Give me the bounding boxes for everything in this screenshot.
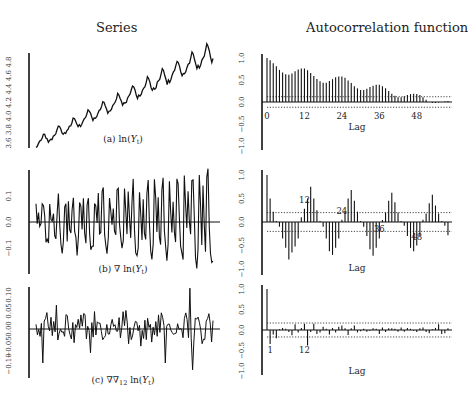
x-tick-label: 36 xyxy=(374,111,385,121)
series-line xyxy=(36,169,213,269)
y-tick-label: −0.5 xyxy=(238,116,246,133)
panel-a-series: 3.63.84.04.24.44.64.8(a) ln(Yt) xyxy=(5,44,213,149)
y-tick-label: 0.1 xyxy=(5,190,13,201)
y-tick-label: −0.1 xyxy=(5,240,13,257)
y-tick-label: 4.8 xyxy=(5,56,13,67)
y-tick-label: 4.4 xyxy=(5,83,13,95)
x-tick-label: 1 xyxy=(267,345,272,355)
y-tick-label: 1.0 xyxy=(238,169,246,180)
y-tick-label: 0.00 xyxy=(5,321,13,337)
lag-annotation: 36 xyxy=(374,224,385,234)
x-axis-label: Lag xyxy=(348,263,365,273)
y-tick-label: 4.2 xyxy=(5,97,13,108)
panel-caption: (b) ∇ ln(Yt) xyxy=(98,264,147,276)
y-tick-label: −1.0 xyxy=(238,138,246,155)
y-tick-label: 0.5 xyxy=(238,74,246,85)
acf-column-title: Autocorrelation function xyxy=(305,20,468,35)
y-tick-label: 0.05 xyxy=(5,303,13,319)
series-column-title: Series xyxy=(96,20,137,35)
lag-annotation: 12 xyxy=(299,195,310,205)
y-tick-label: 0.5 xyxy=(238,304,246,315)
y-tick-label: 0.5 xyxy=(238,193,246,204)
y-tick-label: 1.0 xyxy=(238,283,246,294)
y-tick-label: 0.0 xyxy=(238,324,246,335)
y-tick-label: 3.6 xyxy=(5,137,13,149)
y-tick-label: −1.0 xyxy=(238,261,246,278)
lag-annotation: 24 xyxy=(336,206,347,216)
panel-caption: (a) ln(Yt) xyxy=(103,134,143,146)
series-line xyxy=(36,44,213,148)
panel-b-series: −0.10.00.1(b) ∇ ln(Yt) xyxy=(5,169,220,276)
y-tick-label: 3.8 xyxy=(5,124,13,135)
x-axis-label: Lag xyxy=(348,366,365,376)
y-tick-label: −0.5 xyxy=(238,237,246,254)
panel-c-acf: 1.00.50.0−0.5−1.0112Lag xyxy=(238,283,452,379)
panel-caption: (c) ∇∇12 ln(Yt) xyxy=(92,375,155,387)
y-tick-label: −1.0 xyxy=(238,363,246,380)
x-tick-label: 24 xyxy=(336,111,347,121)
panel-c-series: −0.10−0.050.000.050.10(c) ∇∇12 ln(Yt) xyxy=(5,287,220,387)
y-tick-label: 0.0 xyxy=(5,216,13,227)
panel-a-acf: 1.00.50.0−0.5−1.0012243648Lag xyxy=(238,52,452,154)
y-tick-label: −0.5 xyxy=(238,342,246,359)
x-tick-label: 0 xyxy=(264,111,269,121)
y-tick-label: 1.0 xyxy=(238,52,246,63)
lag-annotation: 48 xyxy=(411,232,422,242)
x-axis-label: Lag xyxy=(348,122,365,132)
y-tick-label: 0.0 xyxy=(238,96,246,107)
y-tick-label: 0.10 xyxy=(5,287,13,303)
x-tick-label: 48 xyxy=(411,111,422,121)
figure: Series Autocorrelation function 3.63.84.… xyxy=(0,0,468,400)
x-tick-label: 12 xyxy=(299,111,310,121)
y-tick-label: 0.0 xyxy=(238,216,246,227)
x-tick-label: 12 xyxy=(299,345,310,355)
y-tick-label: 4.0 xyxy=(5,110,13,121)
y-tick-label: 4.6 xyxy=(5,69,13,81)
y-tick-label: −0.05 xyxy=(5,336,13,357)
panel-b-acf: 1.00.50.0−0.5−1.012243648Lag xyxy=(238,169,452,277)
